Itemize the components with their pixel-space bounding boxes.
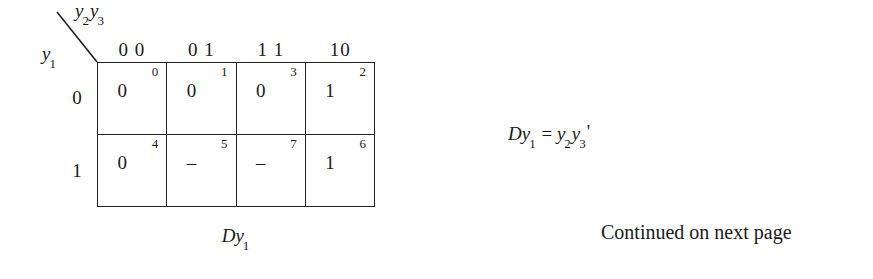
- karnaugh-map-figure: y2y3 y1 0 0 0 1 1 1 10 0 1 0 0 1 0 3 0: [0, 0, 420, 279]
- kmap-cell: 6 1: [305, 135, 374, 206]
- cell-minterm-index: 3: [290, 64, 297, 80]
- kmap-column-headers: 0 0 0 1 1 1 10: [97, 37, 375, 62]
- column-header-3: 10: [306, 37, 376, 62]
- cell-minterm-index: 4: [152, 136, 159, 152]
- column-variable-label: y2y3: [75, 1, 105, 24]
- cell-minterm-index: 1: [221, 64, 228, 80]
- row-header-0: 0: [62, 62, 92, 135]
- equation-rhs-subscript-1: 2: [564, 136, 571, 151]
- kmap-row: 0 0 1 0 3 0 2 1: [98, 63, 374, 134]
- kmap-cell: 0 0: [98, 63, 166, 134]
- column-header-1: 0 1: [167, 37, 237, 62]
- cell-value: 0: [167, 80, 235, 103]
- cell-value: 0: [98, 80, 166, 103]
- cell-minterm-index: 5: [221, 136, 228, 152]
- equation-lhs-subscript: 1: [529, 136, 536, 151]
- caption-subscript: 1: [243, 238, 250, 253]
- kmap-cell: 2 1: [305, 63, 374, 134]
- caption-d-letter: D: [222, 225, 236, 246]
- cell-minterm-index: 0: [152, 64, 159, 80]
- equation-operator: =: [541, 123, 552, 144]
- kmap-row-headers: 0 1: [62, 62, 92, 207]
- cell-minterm-index: 7: [290, 136, 297, 152]
- kmap-cell: 4 0: [98, 135, 166, 206]
- row-variable-subscript: 1: [49, 56, 56, 71]
- kmap-grid: 0 0 1 0 3 0 2 1 4 0 5 –: [97, 62, 375, 207]
- cell-value: 0: [98, 152, 166, 175]
- row-variable-label: y1: [42, 44, 57, 67]
- column-header-0: 0 0: [97, 37, 167, 62]
- kmap-cell: 5 –: [166, 135, 235, 206]
- row-header-1: 1: [62, 135, 92, 208]
- kmap-row: 4 0 5 – 7 – 6 1: [98, 134, 374, 206]
- cell-value: –: [237, 152, 305, 175]
- kmap-cell: 3 0: [236, 63, 305, 134]
- column-variable-2-subscript: 3: [97, 13, 104, 28]
- cell-minterm-index: 2: [360, 64, 367, 80]
- kmap-caption: Dy1: [97, 226, 375, 249]
- continued-on-next-page-note: Continued on next page: [601, 222, 792, 242]
- cell-value: –: [167, 152, 235, 175]
- kmap-cell: 1 0: [166, 63, 235, 134]
- equation-d-letter: D: [508, 123, 522, 144]
- column-header-2: 1 1: [236, 37, 306, 62]
- equation-prime-symbol: ': [587, 121, 590, 142]
- column-variable-1-subscript: 2: [82, 13, 89, 28]
- cell-value: 0: [237, 80, 305, 103]
- cell-value: 1: [306, 80, 374, 103]
- kmap-cell: 7 –: [236, 135, 305, 206]
- cell-value: 1: [306, 152, 374, 175]
- cell-minterm-index: 6: [360, 136, 367, 152]
- boolean-equation: Dy1 = y2y3': [508, 124, 590, 147]
- equation-rhs-subscript-2: 3: [579, 136, 586, 151]
